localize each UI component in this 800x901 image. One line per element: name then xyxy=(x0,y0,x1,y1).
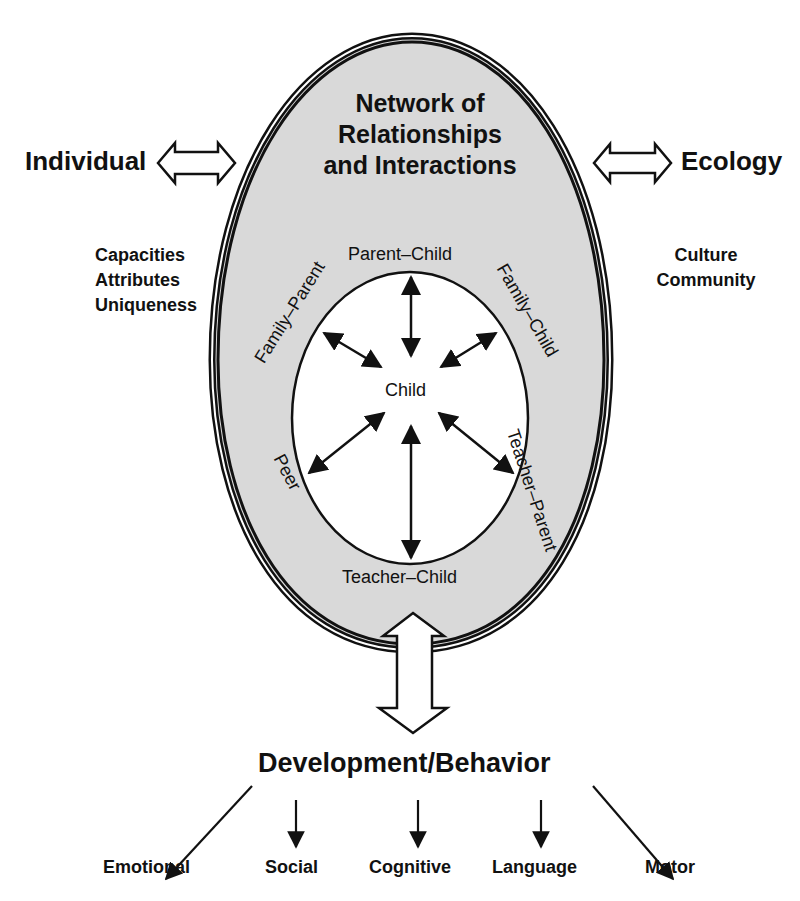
individual-double-arrow-icon xyxy=(158,143,235,183)
item-community: Community xyxy=(654,268,758,293)
domain-cognitive: Cognitive xyxy=(369,857,451,878)
individual-items: Capacities Attributes Uniqueness xyxy=(95,243,197,318)
item-capacities: Capacities xyxy=(95,243,197,268)
item-culture: Culture xyxy=(654,243,758,268)
title-line-3: and Interactions xyxy=(300,150,540,181)
center-title: Network of Relationships and Interaction… xyxy=(300,88,540,181)
ecology-items: Culture Community xyxy=(654,243,758,293)
outcome-double-arrow-icon xyxy=(379,613,447,733)
domain-emotional: Emotional xyxy=(103,857,190,878)
domain-language: Language xyxy=(492,857,577,878)
ecology-double-arrow-icon xyxy=(594,144,671,182)
label-teacher-child: Teacher–Child xyxy=(342,567,457,588)
title-line-2: Relationships xyxy=(300,119,540,150)
label-parent-child: Parent–Child xyxy=(348,244,452,265)
item-attributes: Attributes xyxy=(95,268,197,293)
label-child: Child xyxy=(385,380,426,401)
label-development-behavior: Development/Behavior xyxy=(258,748,551,779)
title-line-1: Network of xyxy=(300,88,540,119)
domain-motor: Motor xyxy=(645,857,695,878)
item-uniqueness: Uniqueness xyxy=(95,293,197,318)
label-ecology: Ecology xyxy=(681,146,782,177)
domain-social: Social xyxy=(265,857,318,878)
label-individual: Individual xyxy=(25,146,146,177)
